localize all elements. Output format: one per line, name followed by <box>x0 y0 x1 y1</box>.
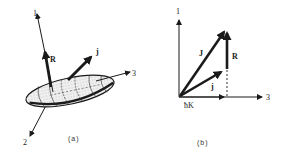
vector-R-label: R <box>50 55 56 64</box>
panel-a-caption: (a) <box>68 135 80 143</box>
panel-b: 1 3 ħK j J R (b) <box>176 7 270 147</box>
vector-j-label: j <box>95 47 99 56</box>
axis-1-label-b: 1 <box>176 7 180 16</box>
panel-a: 1 3 2 R j (a) <box>23 9 136 147</box>
axis-3-label-b: 3 <box>266 93 270 102</box>
figure-canvas: 1 3 2 R j (a) 1 3 ħK j J R (b) <box>0 0 283 158</box>
axis-2-label: 2 <box>23 138 27 147</box>
axis-3-label: 3 <box>132 69 136 78</box>
axis-1-label: 1 <box>33 9 37 18</box>
vector-j-arrow-b <box>180 72 221 96</box>
ellipsoid-body <box>23 69 116 113</box>
vector-R-label-b: R <box>232 52 238 61</box>
vector-J-arrow <box>180 32 224 96</box>
vector-hK-label: ħK <box>184 101 194 110</box>
vector-j-label-b: j <box>210 82 214 91</box>
vector-J-label: J <box>199 49 203 58</box>
panel-b-caption: (b) <box>197 139 209 147</box>
